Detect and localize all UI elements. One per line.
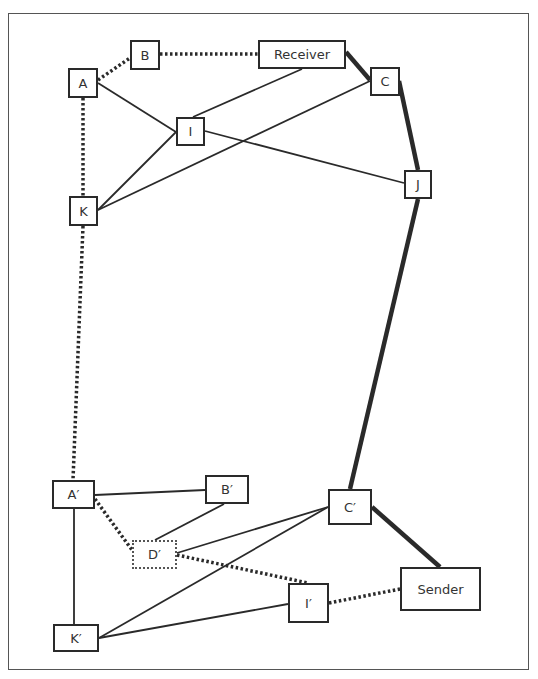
edge-i-prime-sender — [329, 589, 400, 603]
node-k-label: K — [79, 204, 88, 219]
edge-k-a-prime — [73, 226, 83, 480]
node-sender-label: Sender — [417, 582, 463, 597]
edge-d-prime-i-prime — [177, 555, 308, 583]
edge-c-prime-sender — [372, 507, 440, 567]
node-i-label: I — [189, 124, 193, 139]
edge-receiver-c — [346, 52, 370, 80]
edge-a-prime-b-prime — [95, 490, 205, 495]
node-b: B — [130, 40, 160, 70]
node-j-label: J — [416, 177, 420, 192]
edge-b-prime-d-prime — [155, 504, 224, 540]
node-receiver-label: Receiver — [274, 47, 330, 62]
edge-i-j — [205, 131, 404, 183]
node-receiver: Receiver — [258, 40, 346, 69]
edge-k-c — [98, 81, 370, 210]
node-k-prime: K′ — [53, 624, 99, 652]
node-a-prime-label: A′ — [68, 487, 80, 502]
node-i: I — [176, 117, 205, 146]
node-a: A — [68, 68, 98, 98]
node-b-label: B — [141, 48, 150, 63]
edge-d-prime-c-prime — [177, 507, 328, 553]
edge-i-receiver — [193, 69, 302, 117]
node-d-prime: D′ — [132, 540, 177, 569]
node-i-prime: I′ — [288, 583, 329, 623]
node-c-prime-label: C′ — [344, 500, 356, 515]
node-sender: Sender — [400, 567, 481, 611]
node-k-prime-label: K′ — [70, 631, 81, 646]
node-a-prime: A′ — [52, 480, 95, 509]
node-c-label: C — [380, 74, 389, 89]
node-a-label: A — [79, 76, 88, 91]
node-d-prime-label: D′ — [148, 547, 161, 562]
node-k: K — [69, 196, 98, 226]
edge-a-i — [98, 83, 176, 132]
node-j: J — [404, 170, 432, 199]
node-c: C — [370, 67, 400, 96]
node-i-prime-label: I′ — [305, 596, 312, 611]
node-b-prime-label: B′ — [221, 482, 233, 497]
edge-a-b — [98, 58, 130, 80]
edge-j-c-prime — [350, 199, 418, 489]
edge-a-prime-d-prime — [95, 499, 132, 550]
node-b-prime: B′ — [205, 475, 249, 504]
edge-c-j — [399, 81, 418, 170]
node-c-prime: C′ — [328, 489, 372, 525]
edge-k-i — [98, 132, 176, 210]
